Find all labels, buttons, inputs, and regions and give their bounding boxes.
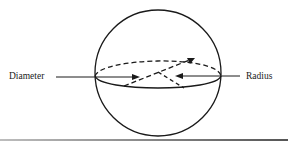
- radius-arrowhead-icon: [175, 73, 183, 79]
- diameter-arrowhead-icon: [132, 74, 140, 80]
- equator-front-solid: [95, 76, 221, 88]
- diameter-label: Diameter: [9, 72, 44, 82]
- bottom-divider: [0, 139, 288, 141]
- equator-back-dashed: [95, 61, 221, 76]
- radius-label: Radius: [246, 72, 272, 82]
